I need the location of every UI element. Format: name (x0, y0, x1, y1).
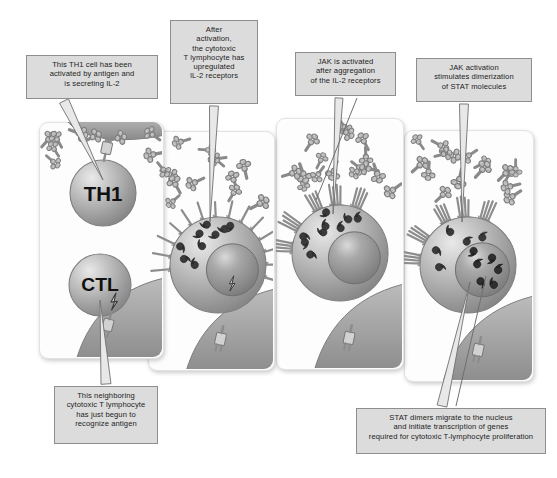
caption-line: is secreting IL-2 (32, 79, 152, 88)
caption-jak-stat-dimerization: JAK activationstimulates dimerizationof … (416, 58, 532, 102)
caption-line: and initiate transcription of genes (362, 422, 540, 431)
caption-line: JAK is activated (301, 57, 390, 66)
caption-line: This TH1 cell has been (32, 60, 152, 69)
caption-line: has just begun to (60, 410, 152, 419)
caption-line: of the IL-2 receptors (301, 76, 390, 85)
caption-line: JAK activation (422, 63, 526, 72)
caption-jak-activated: JAK is activatedafter aggregationof the … (295, 52, 396, 96)
leader-stat-dimers-nucleus (437, 282, 470, 407)
caption-line: of STAT molecules (422, 82, 526, 91)
caption-line: activated by antigen and (32, 69, 152, 78)
caption-stat-dimers-nucleus: STAT dimers migrate to the nucleusand in… (356, 408, 546, 454)
caption-line: This neighboring (60, 391, 152, 400)
caption-line: After (176, 25, 252, 34)
caption-neighboring-ctl: This neighboringcytotoxic T lymphocyteha… (54, 386, 158, 444)
caption-line: IL-2 receptors (176, 71, 252, 80)
caption-line: recognize antigen (60, 419, 152, 428)
leader-th1 (60, 99, 103, 180)
leader-jak-stat-dimerization (460, 104, 469, 222)
caption-line: cytotoxic T lymphocyte (60, 400, 152, 409)
figure-canvas: This TH1 cell has beenactivated by antig… (0, 0, 557, 478)
leader-jak-activated (333, 98, 343, 214)
caption-line: activation, (176, 34, 252, 43)
leader-stat-dimers-nucleus-2 (456, 276, 486, 406)
caption-upregulated-receptors: Afteractivation,the cytotoxicT lymphocyt… (170, 20, 258, 104)
caption-line: stimulates dimerization (422, 72, 526, 81)
leader-neighboring-ctl (100, 300, 111, 384)
leader-upregulated-receptors (210, 106, 219, 222)
caption-line: upregulated (176, 62, 252, 71)
caption-line: the cytotoxic (176, 44, 252, 53)
caption-line: required for cytotoxic T-lymphocyte prol… (362, 432, 540, 441)
caption-line: after aggregation (301, 66, 390, 75)
caption-line: STAT dimers migrate to the nucleus (362, 413, 540, 422)
caption-line: T lymphocyte has (176, 53, 252, 62)
caption-th1: This TH1 cell has beenactivated by antig… (26, 55, 158, 99)
